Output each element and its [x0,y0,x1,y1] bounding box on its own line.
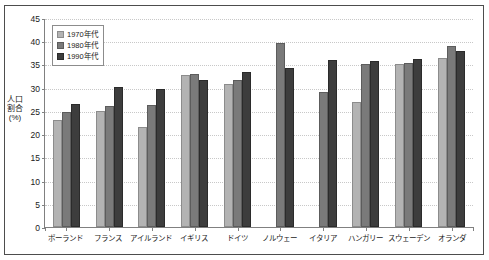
x-axis-labels: ポーランドフランスアイルランドイギリスドイツノルウェーイタリアハンガリースウェー… [44,234,473,243]
x-tick-label: ドイツ [216,234,259,243]
bar-group [430,19,473,227]
x-tick-mark [409,227,410,231]
bar [352,102,361,227]
bar [224,84,233,227]
x-tick-label: アイルランド [130,234,173,243]
bar [413,59,422,227]
x-tick-label: イタリア [301,234,344,243]
x-tick-mark [452,227,453,231]
bar [361,64,370,227]
legend-item: 1980年代 [57,40,98,51]
chart-legend: 1970年代1980年代1990年代 [52,25,104,66]
x-tick-label: スウェーデン [387,234,430,243]
y-tick-label: 35 [6,61,40,69]
y-tick-label: 0 [6,224,40,232]
x-tick-mark [66,227,67,231]
bar-group [387,19,430,227]
bar [147,105,156,227]
bar [53,120,62,227]
bar [456,51,465,227]
y-tick-label: 30 [6,85,40,93]
x-tick-label: フランス [87,234,130,243]
x-tick-label: ノルウェー [259,234,302,243]
x-tick-mark [280,227,281,231]
bar [395,64,404,227]
bar [199,80,208,227]
y-tick-label: 20 [6,131,40,139]
bar-group [216,19,259,227]
bar [138,127,147,227]
bar [370,61,379,227]
legend-label: 1980年代 [67,41,98,50]
x-tick-label: ポーランド [44,234,87,243]
y-tick-label: 25 [6,108,40,116]
y-tick-label: 15 [6,154,40,162]
bar-group [131,19,174,227]
bar [190,74,199,227]
legend-item: 1990年代 [57,51,98,62]
x-tick-label: オランダ [430,234,473,243]
x-tick-mark [238,227,239,231]
bar [114,87,123,227]
bar [181,75,190,227]
bar [96,111,105,227]
legend-label: 1990年代 [67,52,98,61]
x-tick-mark [152,227,153,231]
x-tick-mark [473,227,474,231]
x-tick-mark [366,227,367,231]
bar [276,43,285,227]
legend-swatch-icon [57,53,64,60]
bar [319,92,328,227]
chart-figure: 人口割合(%) 454035302520151050 ポーランドフランスアイルラ… [0,0,489,260]
bar [438,58,447,227]
x-tick-mark [323,227,324,231]
bar [233,80,242,227]
x-tick-mark [109,227,110,231]
bar [447,46,456,227]
bar [285,68,294,227]
bar [156,89,165,227]
bar-groups [45,19,473,227]
bar [242,72,251,227]
legend-item: 1970年代 [57,29,98,40]
plot-area: 454035302520151050 [44,19,473,228]
x-tick-mark [45,227,46,231]
y-tick-label: 10 [6,178,40,186]
legend-swatch-icon [57,31,64,38]
y-tick-label: 45 [6,15,40,23]
bar [62,112,71,227]
x-tick-label: ハンガリー [344,234,387,243]
bar [105,106,114,227]
legend-swatch-icon [57,42,64,49]
bar-group [345,19,388,227]
y-tick-label: 40 [6,38,40,46]
bar [328,60,337,227]
x-tick-label: イギリス [173,234,216,243]
bar [71,104,80,227]
bar-group [173,19,216,227]
bar-group [302,19,345,227]
x-tick-mark [195,227,196,231]
y-tick-label: 5 [6,201,40,209]
legend-label: 1970年代 [67,30,98,39]
bar-group [259,19,302,227]
bar [404,63,413,227]
